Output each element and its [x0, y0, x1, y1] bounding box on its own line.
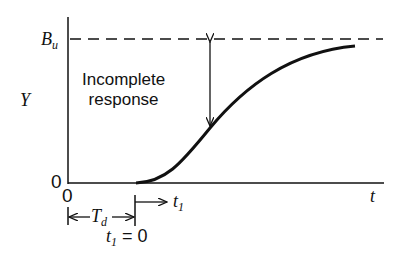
y-origin-label: 0	[51, 172, 62, 191]
shifted-zero-label: t1 = 0	[106, 227, 148, 248]
delay-label: Td	[91, 207, 107, 228]
x-origin-label: 0	[62, 186, 73, 205]
response-curve	[136, 46, 355, 183]
incomplete-response-label: Incomplete response	[82, 70, 165, 109]
upper-bound-label: Bu	[41, 30, 58, 51]
shifted-time-label: t1	[173, 192, 184, 213]
y-axis-label: Y	[20, 91, 30, 109]
x-axis-label: t	[370, 187, 375, 205]
diagram-graphics	[0, 0, 401, 259]
delayed-response-diagram: Bu Y t Incomplete response 0 0 t1 Td t1 …	[0, 0, 401, 259]
